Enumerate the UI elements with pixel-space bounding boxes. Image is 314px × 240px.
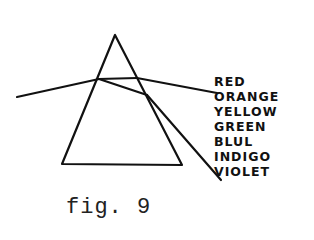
- prism-triangle: [62, 35, 182, 165]
- label-green: GREEN: [214, 119, 279, 134]
- spectrum-label-list: RED ORANGE YELLOW GREEN BLUL INDIGO VIOL…: [214, 74, 279, 179]
- label-yellow: YELLOW: [214, 104, 279, 119]
- label-violet: VIOLET: [214, 164, 279, 179]
- figure-caption: fig. 9: [66, 195, 151, 220]
- label-indigo: INDIGO: [214, 149, 279, 164]
- label-red: RED: [214, 74, 279, 89]
- exit-ray-red: [137, 78, 217, 93]
- label-blue: BLUL: [214, 134, 279, 149]
- label-orange: ORANGE: [214, 89, 279, 104]
- exit-ray-violet: [147, 95, 221, 180]
- incident-ray: [17, 79, 99, 97]
- internal-ray-top: [99, 78, 137, 79]
